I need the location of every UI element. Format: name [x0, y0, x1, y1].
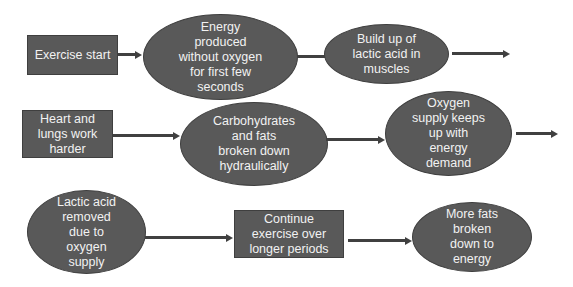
connector-line — [297, 55, 327, 58]
node-label: Continue exercise over longer periods — [249, 212, 328, 257]
node-carbs-fats: Carbohydrates and fats broken down hydra… — [180, 102, 328, 186]
arrow-head-icon — [135, 51, 142, 59]
arrow-line — [145, 236, 228, 239]
node-label: Lactic acid removed due to oxygen supply — [57, 195, 116, 270]
node-label: Build up of lactic acid in muscles — [352, 32, 420, 77]
arrow-line — [113, 134, 174, 137]
arrow-line — [452, 52, 504, 55]
node-more-fats: More fats broken down to energy — [412, 202, 532, 272]
node-exercise-start: Exercise start — [27, 35, 118, 75]
node-label: Oxygen supply keeps up with energy deman… — [412, 96, 485, 171]
arrow-head-icon — [173, 132, 180, 140]
node-oxygen-supply: Oxygen supply keeps up with energy deman… — [385, 91, 512, 176]
node-lactic-acid-buildup: Build up of lactic acid in muscles — [324, 24, 449, 84]
arrow-head-icon — [226, 234, 233, 242]
node-label: Heart and lungs work harder — [38, 112, 98, 157]
arrow-line — [326, 138, 379, 141]
arrow-line — [516, 132, 552, 135]
node-energy-without-oxygen: Energy produced without oxygen for first… — [143, 14, 298, 100]
arrow-head-icon — [503, 50, 510, 58]
node-lactic-acid-removed: Lactic acid removed due to oxygen supply — [27, 190, 146, 274]
arrow-head-icon — [378, 136, 385, 144]
arrow-head-icon — [551, 130, 558, 138]
node-continue-exercise: Continue exercise over longer periods — [234, 210, 344, 258]
arrow-line — [348, 239, 406, 242]
node-label: Exercise start — [35, 48, 111, 63]
node-label: Carbohydrates and fats broken down hydra… — [213, 114, 295, 174]
node-label: More fats broken down to energy — [446, 207, 498, 267]
node-heart-lungs: Heart and lungs work harder — [22, 110, 113, 158]
arrow-head-icon — [405, 237, 412, 245]
node-label: Energy produced without oxygen for first… — [179, 20, 262, 95]
